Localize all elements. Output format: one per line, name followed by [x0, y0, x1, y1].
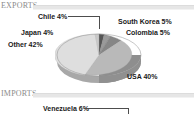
- imports-section-header: IMPORTS: [0, 89, 194, 100]
- pie-label-colombia: Colombia 5%: [126, 29, 170, 37]
- exports-imports-pie-chart-figure: EXPORTS Chile 4% Ja: [0, 0, 194, 114]
- pie-label-other: Other 42%: [8, 41, 43, 49]
- pie-label-south-korea: South Korea 5%: [118, 18, 172, 26]
- pie-label-venezuela: Venezuela 6%: [43, 105, 89, 113]
- imports-header-rule: [33, 93, 194, 98]
- exports-section-title: EXPORTS: [1, 1, 37, 11]
- venezuela-leader-line-horizontal: [84, 108, 129, 109]
- exports-section-header: EXPORTS: [0, 1, 194, 12]
- pie-label-japan: Japan 4%: [21, 29, 53, 37]
- pie-label-usa: USA 40%: [127, 73, 157, 81]
- chile-leader-line-vertical: [99, 16, 100, 29]
- chile-leader-line-horizontal: [68, 16, 100, 17]
- venezuela-leader-line-vertical: [128, 108, 129, 114]
- exports-header-rule: [33, 5, 194, 10]
- imports-section-title: IMPORTS: [1, 89, 37, 99]
- pie-label-chile: Chile 4%: [38, 13, 67, 21]
